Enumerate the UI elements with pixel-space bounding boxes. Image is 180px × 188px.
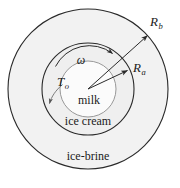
diagram-canvas: Rb Ra ω To milk ice cream ice-brine bbox=[0, 0, 180, 188]
diagram-figure: Rb Ra ω To milk ice cream ice-brine bbox=[0, 0, 180, 188]
label-temperature-subscript: o bbox=[65, 81, 69, 91]
region-label-ice-brine: ice-brine bbox=[67, 149, 110, 163]
label-radius-b-subscript: b bbox=[158, 21, 162, 31]
label-radius-b-symbol: R bbox=[149, 14, 158, 29]
label-radius-a-subscript: a bbox=[141, 67, 145, 77]
label-angular-velocity: ω bbox=[77, 53, 85, 67]
label-radius-a-symbol: R bbox=[132, 60, 141, 75]
region-label-milk: milk bbox=[78, 93, 100, 107]
label-radius-b: Rb bbox=[149, 14, 163, 31]
region-label-ice-cream: ice cream bbox=[65, 114, 112, 128]
